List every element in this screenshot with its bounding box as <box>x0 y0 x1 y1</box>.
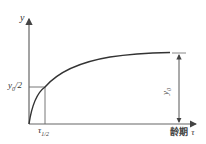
x-axis-label: 龄期 τ <box>170 128 194 137</box>
growth-curve <box>29 53 170 125</box>
growth-curve-diagram: y y0/2 τ1/2 y0 龄期 τ <box>0 0 206 144</box>
asymptote-label: y0 <box>161 88 172 95</box>
half-value-label: y0/2 <box>8 81 22 92</box>
half-time-label: τ1/2 <box>38 126 49 137</box>
y-axis-label: y <box>20 13 24 23</box>
